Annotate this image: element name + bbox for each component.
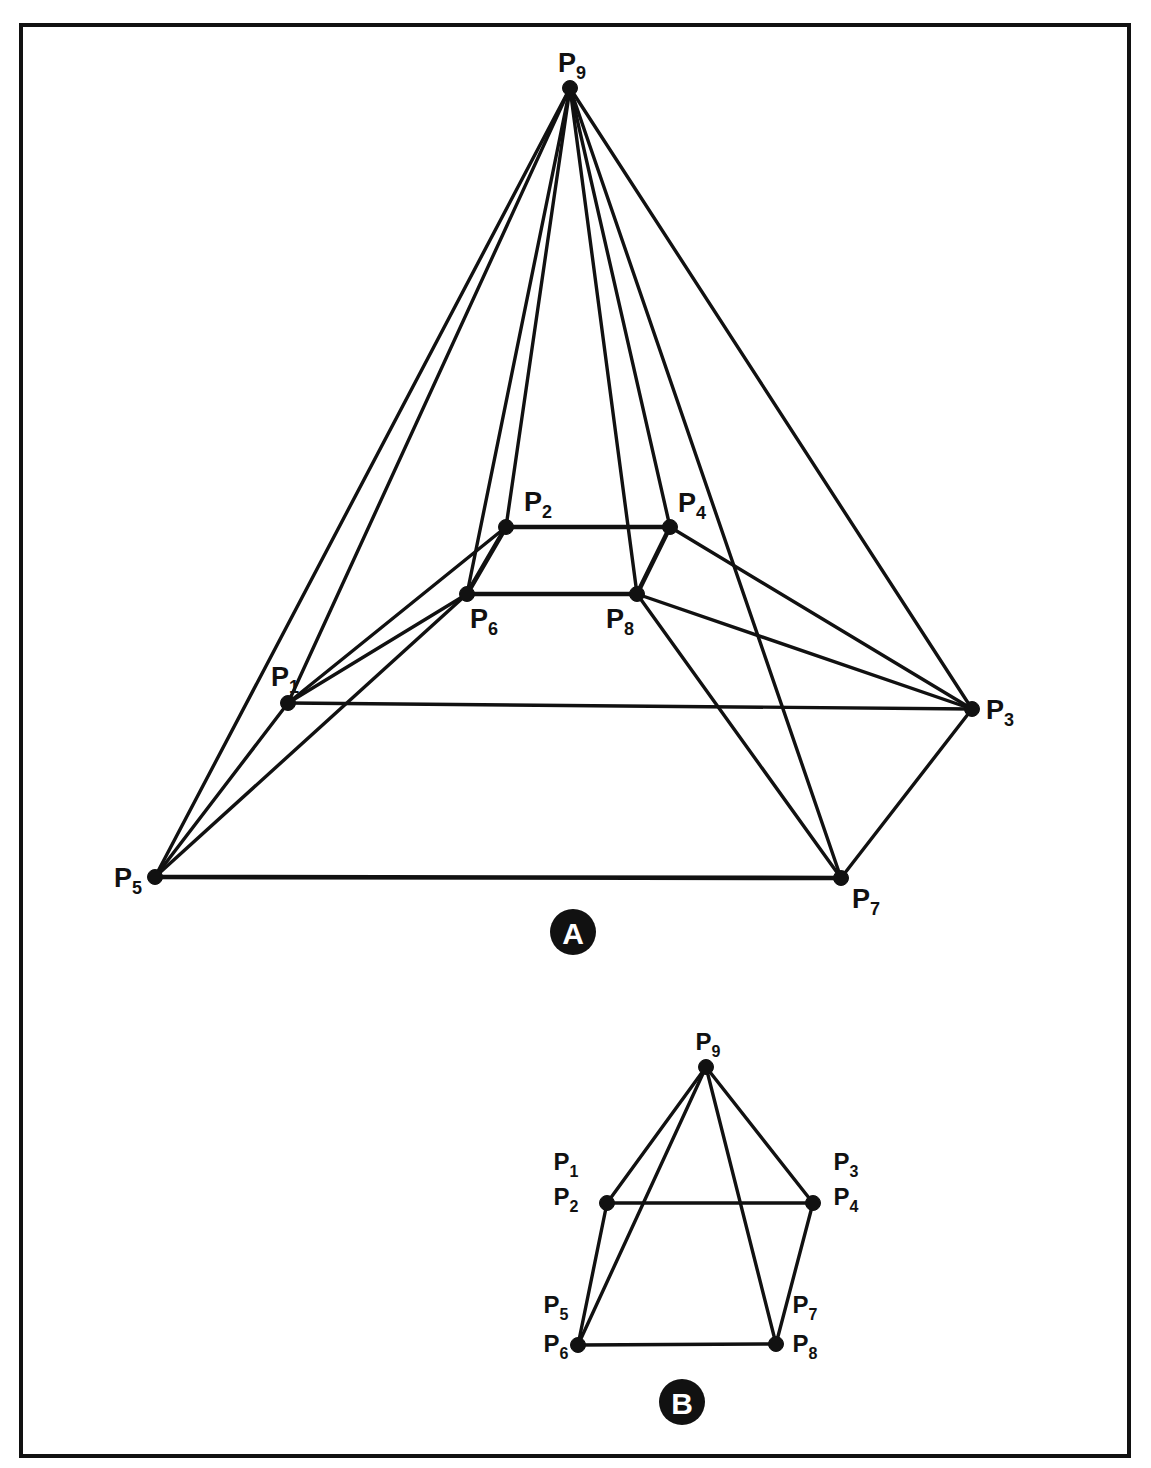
label-p7: P7 [793, 1291, 818, 1323]
edge-p9-p6 [467, 88, 570, 594]
label-p9: P9 [696, 1028, 721, 1060]
vertex-p78[interactable] [769, 1337, 784, 1352]
label-p6: P6 [544, 1330, 569, 1362]
edge-p1-p3 [288, 703, 972, 709]
edge-p9-p12 [607, 1067, 706, 1203]
vertex-p1[interactable] [281, 696, 296, 711]
label-p8: P8 [793, 1330, 818, 1362]
label-p8: P8 [606, 604, 634, 639]
vertex-p9[interactable] [699, 1060, 714, 1075]
label-p4: P4 [834, 1183, 859, 1215]
label-p1: P1 [271, 662, 299, 697]
vertex-p8[interactable] [630, 587, 645, 602]
diagram-canvas: P1P2P3P4P5P6P7P8P9 A P1P2P3P4P5P6P7P8P9 … [0, 0, 1151, 1468]
edge-p9-p1 [288, 88, 570, 703]
label-p3: P3 [834, 1148, 859, 1180]
edge-p4-p8 [637, 527, 670, 594]
vertex-p6[interactable] [460, 587, 475, 602]
label-p1: P1 [554, 1148, 579, 1180]
label-p6: P6 [470, 604, 498, 639]
edge-p3-p7 [841, 709, 972, 878]
edge-p34-p78 [776, 1203, 813, 1344]
label-p9: P9 [558, 48, 586, 83]
label-p4: P4 [678, 488, 706, 523]
vertex-p4[interactable] [663, 520, 678, 535]
figure-b-node-group [571, 1060, 821, 1353]
badge-letter-a: A [562, 917, 584, 950]
vertex-p3[interactable] [965, 702, 980, 717]
figure-a-edge-group [155, 88, 972, 878]
vertex-p34[interactable] [806, 1196, 821, 1211]
figure-a-label-group: P1P2P3P4P5P6P7P8P9 [114, 48, 1014, 919]
edge-p1-p5 [155, 703, 288, 877]
edge-p5-p7 [155, 877, 841, 878]
edge-p3-p8 [637, 594, 972, 709]
vertex-diagram-svg: P1P2P3P4P5P6P7P8P9 A P1P2P3P4P5P6P7P8P9 … [0, 0, 1151, 1468]
figure-b-badge[interactable]: B [659, 1379, 705, 1425]
edge-p5-p6 [155, 594, 467, 877]
vertex-p7[interactable] [834, 871, 849, 886]
edge-p9-p3 [570, 88, 972, 709]
edge-p7-p8 [637, 594, 841, 878]
edge-p9-p5 [155, 88, 570, 877]
label-p5: P5 [544, 1291, 569, 1323]
badge-letter-b: B [671, 1387, 693, 1420]
vertex-p12[interactable] [600, 1196, 615, 1211]
label-p5: P5 [114, 863, 142, 898]
page-border-frame [21, 25, 1129, 1456]
label-p2: P2 [524, 487, 552, 522]
label-p3: P3 [986, 695, 1014, 730]
label-p7: P7 [852, 884, 880, 919]
edge-p9-p78 [706, 1067, 776, 1344]
label-p2: P2 [554, 1183, 579, 1215]
vertex-p5[interactable] [148, 870, 163, 885]
vertex-p2[interactable] [499, 520, 514, 535]
figure-a-node-group [148, 81, 980, 886]
edge-p9-p56 [578, 1067, 706, 1345]
edge-p56-p78 [578, 1344, 776, 1345]
edge-p12-p56 [578, 1203, 607, 1345]
edge-p9-p7 [570, 88, 841, 878]
vertex-p56[interactable] [571, 1338, 586, 1353]
figure-a-badge[interactable]: A [550, 909, 596, 955]
edge-p3-p4 [670, 527, 972, 709]
